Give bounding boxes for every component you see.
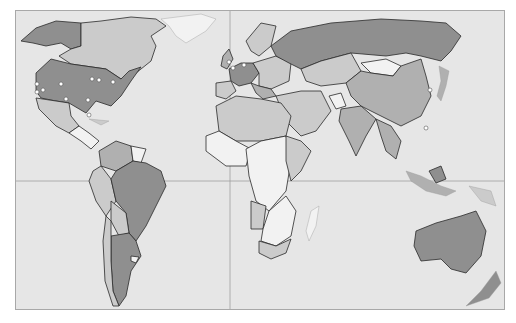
india xyxy=(339,106,376,156)
argentina xyxy=(111,233,141,306)
city-marker[interactable] xyxy=(90,77,94,81)
madagascar xyxy=(306,206,319,241)
city-marker[interactable] xyxy=(97,78,101,82)
iberia xyxy=(216,81,236,99)
city-marker[interactable] xyxy=(64,97,68,101)
scandinavia xyxy=(246,23,276,56)
city-marker[interactable] xyxy=(41,88,45,92)
japan xyxy=(437,66,449,101)
cuba xyxy=(89,119,109,125)
guianas xyxy=(131,146,146,163)
alaska xyxy=(21,21,81,49)
east-africa xyxy=(286,136,311,181)
city-marker[interactable] xyxy=(231,66,235,70)
city-marker[interactable] xyxy=(424,126,428,130)
city-marker[interactable] xyxy=(86,98,90,102)
city-marker[interactable] xyxy=(111,80,115,84)
city-marker[interactable] xyxy=(242,63,246,67)
afghanistan xyxy=(329,93,346,109)
new-guinea xyxy=(469,186,496,206)
city-marker[interactable] xyxy=(35,90,39,94)
southeast-asia xyxy=(376,119,401,159)
city-marker[interactable] xyxy=(35,82,39,86)
map-canvas xyxy=(16,11,505,310)
uk xyxy=(221,49,233,69)
city-marker[interactable] xyxy=(59,82,63,86)
north-africa xyxy=(216,96,291,141)
world-map xyxy=(15,10,505,310)
australia xyxy=(414,211,486,273)
city-marker[interactable] xyxy=(227,60,231,64)
city-marker[interactable] xyxy=(87,113,91,117)
angola xyxy=(251,201,266,229)
borneo xyxy=(429,166,446,183)
central-america xyxy=(69,126,99,149)
new-zealand xyxy=(466,271,501,306)
city-marker[interactable] xyxy=(428,88,432,92)
greenland xyxy=(161,14,216,43)
russia xyxy=(271,19,461,69)
